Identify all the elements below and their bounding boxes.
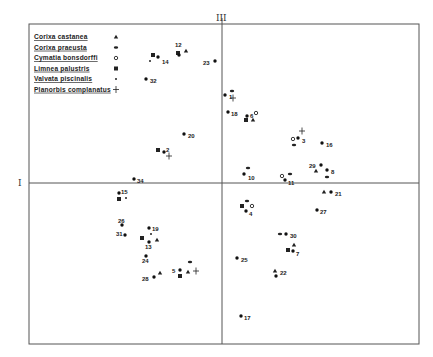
open-circle-marker-icon xyxy=(114,56,117,59)
axis-I-label: I xyxy=(18,178,22,188)
site-dot-icon xyxy=(320,141,323,144)
site-label: 8 xyxy=(331,169,335,175)
site-label: 24 xyxy=(142,258,149,264)
small-dot-marker-icon xyxy=(125,197,127,199)
site-dot-icon xyxy=(178,268,181,271)
plus-marker-icon xyxy=(113,86,119,93)
legend-item-label: Planorbis complanatus xyxy=(34,86,111,94)
site-dot-icon xyxy=(319,163,322,166)
legend-item: Planorbis complanatus xyxy=(34,86,119,94)
site-point: 19 xyxy=(147,226,159,232)
dash-marker-icon xyxy=(245,200,249,202)
legend-item: Cymatia bonsdorffi xyxy=(34,54,118,62)
dash-marker-icon xyxy=(246,167,250,169)
site-label: 30 xyxy=(290,233,297,239)
site-label: 1 xyxy=(229,94,233,100)
site-dot-icon xyxy=(242,172,245,175)
site-point: 27 xyxy=(315,208,327,215)
site-point: 17 xyxy=(239,314,251,321)
site-point: 14 xyxy=(156,55,169,65)
site-point: 29 xyxy=(309,163,323,169)
site-dot-icon xyxy=(329,190,332,193)
site-dot-icon xyxy=(325,168,328,171)
site-point: 5 xyxy=(172,268,182,274)
plus-marker-icon xyxy=(193,268,199,275)
open-circle-marker-icon xyxy=(250,204,253,207)
site-point: 16 xyxy=(320,141,333,148)
site-label: 28 xyxy=(142,276,149,282)
site-point: 18 xyxy=(226,110,238,117)
legend-item: Corixa castanea xyxy=(34,33,118,40)
site-point: 21 xyxy=(329,190,342,197)
triangle-marker-icon xyxy=(322,190,326,194)
site-label: 18 xyxy=(231,111,238,117)
site-label: 22 xyxy=(280,270,287,276)
site-point: 7 xyxy=(291,249,300,257)
dash-marker-icon xyxy=(114,46,118,48)
triangle-marker-icon xyxy=(314,169,318,173)
square-marker-icon xyxy=(140,236,144,240)
site-label: 11 xyxy=(288,180,295,186)
site-label: 34 xyxy=(137,178,144,184)
site-label: 31 xyxy=(116,231,123,237)
plot-frame xyxy=(29,24,419,344)
site-label: 7 xyxy=(296,251,300,257)
plus-marker-icon xyxy=(299,128,305,135)
site-point: 20 xyxy=(182,132,195,139)
site-dot-icon xyxy=(315,208,318,211)
axis-III-label: III xyxy=(216,13,227,23)
site-points: 1214322311862023162981011341521427261931… xyxy=(116,42,342,321)
legend-item: Limnea palustris xyxy=(34,65,118,73)
site-dot-icon xyxy=(244,209,247,212)
legend: Corixa castaneaCorixa praeustaCymatia bo… xyxy=(34,33,119,93)
site-dot-icon xyxy=(177,53,180,56)
legend-item-label: Corixa castanea xyxy=(34,33,88,40)
triangle-marker-icon xyxy=(273,269,277,273)
site-point: 23 xyxy=(203,59,217,66)
open-circle-marker-icon xyxy=(291,137,294,140)
triangle-marker-icon xyxy=(155,238,159,242)
ordination-chart: III I Corixa castaneaCorixa praeustaCyma… xyxy=(0,0,433,357)
site-point: 11 xyxy=(283,178,295,186)
site-dot-icon xyxy=(123,233,126,236)
triangle-marker-icon xyxy=(114,35,118,39)
site-point: 15 xyxy=(117,189,128,195)
site-label: 14 xyxy=(162,59,169,65)
site-dot-icon xyxy=(132,177,135,180)
site-label: 2 xyxy=(166,147,170,153)
site-point: 31 xyxy=(116,231,127,237)
site-dot-icon xyxy=(239,314,242,317)
triangle-marker-icon xyxy=(184,49,188,53)
square-marker-icon xyxy=(151,53,155,57)
legend-item: Valvata piscinalis xyxy=(34,75,117,83)
site-dot-icon xyxy=(226,110,229,113)
site-label: 15 xyxy=(121,189,128,195)
site-label: 32 xyxy=(150,78,157,84)
site-label: 20 xyxy=(188,133,195,139)
small-dot-marker-icon xyxy=(115,78,117,80)
triangle-marker-icon xyxy=(292,243,296,247)
site-label: 21 xyxy=(335,191,342,197)
plus-marker-icon xyxy=(166,153,172,160)
site-label: 10 xyxy=(248,175,255,181)
site-point: 1 xyxy=(223,93,233,100)
site-dot-icon xyxy=(144,77,147,80)
legend-item-label: Valvata piscinalis xyxy=(34,75,92,83)
small-dot-marker-icon xyxy=(149,60,151,62)
site-point: 28 xyxy=(142,275,156,282)
square-marker-icon xyxy=(114,67,118,71)
site-dot-icon xyxy=(223,93,226,96)
square-marker-icon xyxy=(244,118,248,122)
dash-marker-icon xyxy=(325,176,329,178)
site-label: 13 xyxy=(145,244,152,250)
site-dot-icon xyxy=(152,275,155,278)
site-label: 25 xyxy=(241,257,248,263)
triangle-marker-icon xyxy=(158,271,162,275)
legend-item-label: Corixa praeusta xyxy=(34,44,87,52)
site-label: 16 xyxy=(326,142,333,148)
dash-marker-icon xyxy=(188,261,192,263)
site-dot-icon xyxy=(296,136,299,139)
site-label: 26 xyxy=(118,218,125,224)
legend-item-label: Limnea palustris xyxy=(34,65,90,73)
legend-item-label: Cymatia bonsdorffi xyxy=(34,54,98,62)
